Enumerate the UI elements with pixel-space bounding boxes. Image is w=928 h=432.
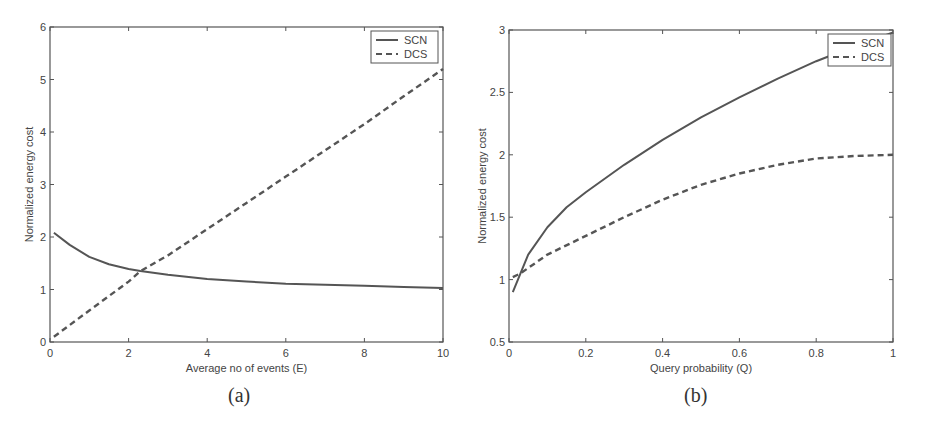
- y-axis-label: Normalized energy cost: [476, 128, 488, 244]
- x-tick-label: 0: [506, 347, 512, 359]
- y-axis-label: Normalized energy cost: [23, 127, 35, 243]
- y-tick-label: 0: [40, 336, 46, 348]
- x-axis-ticks: 0246810: [47, 27, 449, 359]
- chart-b-svg: 00.20.40.60.810.511.522.53Query probabil…: [464, 0, 928, 432]
- x-tick-label: 6: [283, 347, 289, 359]
- series-scn-line: [54, 233, 443, 288]
- plot-frame: [50, 27, 443, 342]
- caption-b: (b): [684, 384, 707, 407]
- y-tick-label: 1: [40, 284, 46, 296]
- chart-a-svg: 02468100123456Average no of events (E)No…: [0, 0, 464, 432]
- series-dcs-line: [513, 155, 893, 277]
- caption-a: (a): [228, 384, 250, 407]
- series-dcs-line: [54, 69, 443, 337]
- x-tick-label: 0.4: [655, 347, 670, 359]
- x-tick-label: 0.2: [578, 347, 593, 359]
- y-tick-label: 2.5: [490, 86, 505, 98]
- plot-frame: [509, 30, 893, 342]
- y-tick-label: 1.5: [490, 211, 505, 223]
- legend-dcs-label: DCS: [861, 51, 884, 63]
- chart-panel-b: 00.20.40.60.810.511.522.53Query probabil…: [464, 0, 928, 432]
- x-tick-label: 0.6: [732, 347, 747, 359]
- y-tick-label: 3: [40, 179, 46, 191]
- y-tick-label: 0.5: [490, 336, 505, 348]
- y-tick-label: 2: [499, 149, 505, 161]
- legend-scn-label: SCN: [861, 37, 884, 49]
- x-tick-label: 1: [890, 347, 896, 359]
- legend: SCNDCS: [371, 31, 438, 63]
- y-tick-label: 6: [40, 21, 46, 33]
- x-tick-label: 0: [47, 347, 53, 359]
- legend: SCNDCS: [828, 34, 891, 66]
- x-axis-ticks: 00.20.40.60.81: [506, 30, 896, 359]
- x-axis-label: Average no of events (E): [186, 362, 307, 374]
- y-tick-label: 3: [499, 24, 505, 36]
- x-tick-label: 8: [361, 347, 367, 359]
- y-axis-ticks: 0123456: [40, 21, 443, 348]
- y-tick-label: 1: [499, 274, 505, 286]
- legend-scn-label: SCN: [404, 34, 427, 46]
- series-scn-line: [513, 33, 893, 293]
- x-tick-label: 2: [126, 347, 132, 359]
- x-axis-label: Query probability (Q): [650, 362, 752, 374]
- x-tick-label: 4: [204, 347, 210, 359]
- y-tick-label: 2: [40, 231, 46, 243]
- legend-dcs-label: DCS: [404, 48, 427, 60]
- x-tick-label: 0.8: [809, 347, 824, 359]
- y-axis-ticks: 0.511.522.53: [490, 24, 893, 348]
- chart-panel-a: 02468100123456Average no of events (E)No…: [0, 0, 464, 432]
- x-tick-label: 10: [437, 347, 449, 359]
- y-tick-label: 4: [40, 126, 46, 138]
- y-tick-label: 5: [40, 74, 46, 86]
